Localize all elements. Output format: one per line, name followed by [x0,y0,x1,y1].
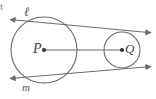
center-label-q: Q [125,42,134,55]
tangent-line-m [10,67,151,79]
tangent-line-l-label: ℓ [24,5,29,18]
geometry-figure: t ℓ m P Q [0,0,156,99]
center-point-p [42,48,46,52]
stray-character-t: t [0,1,3,12]
center-label-p: P [33,42,42,56]
center-point-q [120,48,124,52]
tangent-line-l [10,20,151,33]
tangent-line-m-label: m [22,82,30,93]
